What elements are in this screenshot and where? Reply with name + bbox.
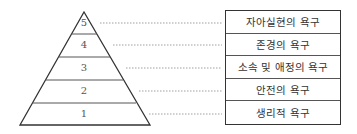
level-number: 4 bbox=[74, 39, 94, 50]
need-label: 생리적 욕구 bbox=[226, 101, 340, 124]
need-label: 자아실현의 욕구 bbox=[226, 11, 340, 34]
leader-lines bbox=[100, 23, 222, 114]
level-number: 3 bbox=[74, 62, 94, 73]
level-number: 2 bbox=[74, 85, 94, 96]
needs-table: 자아실현의 욕구 존경의 욕구 소속 및 애정의 욕구 안전의 욕구 생리적 욕… bbox=[225, 10, 341, 125]
need-label: 안전의 욕구 bbox=[226, 79, 340, 102]
level-number: 5 bbox=[74, 17, 94, 28]
need-label: 존경의 욕구 bbox=[226, 34, 340, 57]
need-label: 소속 및 애정의 욕구 bbox=[226, 56, 340, 79]
level-number: 1 bbox=[74, 108, 94, 119]
